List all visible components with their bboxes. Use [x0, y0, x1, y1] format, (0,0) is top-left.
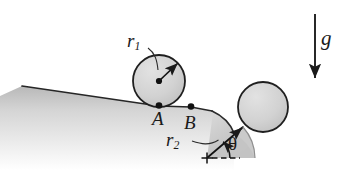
label-theta: θ: [228, 134, 237, 153]
incline-body: [0, 86, 234, 170]
label-point-a: A: [152, 109, 164, 128]
label-r2: r2: [166, 130, 179, 152]
ball-small-group: [133, 48, 185, 107]
ball-large-group: [238, 82, 288, 132]
label-gravity: g: [321, 28, 332, 49]
physics-diagram: r1 r2 A B θ g: [0, 0, 354, 170]
ball-large: [238, 82, 288, 132]
point-b-dot: [188, 103, 195, 110]
label-r1: r1: [127, 31, 140, 53]
label-point-b: B: [184, 113, 196, 132]
